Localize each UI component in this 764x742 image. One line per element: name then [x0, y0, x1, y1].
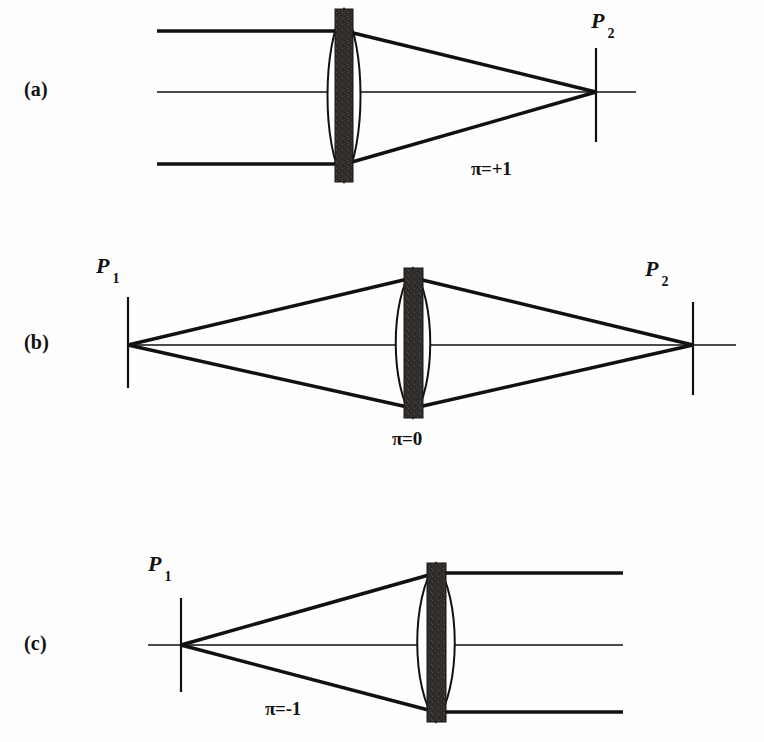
- point-label-p1-panel-c: P1: [148, 551, 171, 580]
- panel-b-group: [128, 268, 736, 418]
- panel-b-output-ray-top: [414, 278, 693, 345]
- parity-label-panel-a: π=+1: [471, 158, 511, 180]
- point-label-p2-subscript-a: 2: [604, 26, 614, 41]
- panel-a-output-ray-bottom: [345, 92, 596, 164]
- ray-diagram-svg: [0, 0, 764, 742]
- panel-a-lens-bar: [335, 9, 353, 182]
- panel-c-input-ray-top: [181, 573, 436, 645]
- panel-c-group: [148, 563, 623, 722]
- panel-a-group: [157, 9, 636, 182]
- point-label-p1-letter-c: P: [148, 551, 161, 576]
- panel-b-output-ray-bottom: [414, 345, 693, 408]
- parity-label-panel-b: π=0: [392, 428, 422, 450]
- panel-label-c: (c): [24, 632, 47, 655]
- panel-b-input-ray-bottom: [128, 345, 412, 408]
- point-label-p2-subscript-b: 2: [658, 274, 668, 289]
- panel-c-input-ray-bottom: [181, 645, 436, 712]
- parity-label-panel-c: π=-1: [265, 698, 301, 720]
- point-label-p2-letter-a: P: [591, 8, 604, 33]
- point-label-p2-panel-a: P2: [591, 8, 614, 37]
- panel-c-lens-bar: [427, 563, 446, 722]
- panel-label-a: (a): [24, 78, 48, 101]
- optics-figure: (a) P2 π=+1 (b) P1 P2 π=0 (c) P1 π=-1: [0, 0, 764, 742]
- panel-label-b: (b): [24, 331, 49, 354]
- point-label-p1-subscript-b: 1: [109, 271, 119, 286]
- point-label-p1-letter-b: P: [96, 253, 109, 278]
- point-label-p2-panel-b: P2: [645, 256, 668, 285]
- point-label-p2-letter-b: P: [645, 256, 658, 281]
- point-label-p1-subscript-c: 1: [161, 569, 171, 584]
- panel-a-output-ray-top: [345, 31, 596, 92]
- panel-b-input-ray-top: [128, 278, 412, 345]
- point-label-p1-panel-b: P1: [96, 253, 119, 282]
- panel-b-lens-bar: [404, 268, 423, 418]
